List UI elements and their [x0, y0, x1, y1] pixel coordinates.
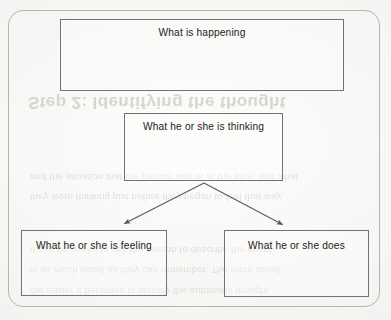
node-what-is-happening[interactable]: What is happening: [60, 19, 344, 91]
node-what-he-or-she-does[interactable]: What he or she does: [224, 230, 369, 297]
node-label-does: What he or she does: [248, 240, 345, 251]
node-label-feeling: What he or she is feeling: [36, 240, 152, 251]
node-what-he-or-she-is-thinking[interactable]: What he or she is thinking: [124, 113, 283, 181]
node-what-he-or-she-is-feeling[interactable]: What he or she is feeling: [21, 230, 167, 296]
node-label-what-is-happening: What is happening: [159, 27, 246, 38]
node-label-thinking: What he or she is thinking: [143, 121, 264, 132]
diagram-page: Step 2: Identifying the thought and the …: [0, 0, 391, 320]
